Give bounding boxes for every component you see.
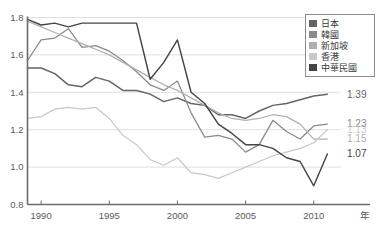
legend-item-0[interactable]: 日本: [309, 18, 370, 29]
legend-swatch-icon-2: [309, 42, 317, 49]
series-lines-group: [28, 19, 328, 185]
x-tick-labels-group: 19901995200020052010: [31, 210, 325, 221]
x-tick-label-2: 2000: [167, 210, 188, 221]
chart-legend: 日本 韓國 新加坡 香港 中華民國: [305, 14, 375, 77]
series-line-0: [28, 68, 328, 118]
series-line-2: [28, 21, 328, 139]
x-tick-label-3: 2005: [235, 210, 256, 221]
y-tick-label-3: 1.2: [10, 124, 23, 135]
legend-swatch-icon-3: [309, 53, 317, 60]
legend-swatch-icon-1: [309, 31, 317, 38]
x-axis-unit-group: 年: [360, 210, 370, 221]
legend-label-1: 韓國: [321, 30, 339, 40]
legend-item-3[interactable]: 香港: [309, 51, 370, 62]
legend-item-2[interactable]: 新加坡: [309, 40, 370, 51]
y-tick-labels-group: 1.81.61.41.21.00.8: [10, 12, 23, 210]
legend-item-4[interactable]: 中華民國: [309, 62, 370, 73]
y-tick-label-2: 1.4: [10, 87, 23, 98]
end-label-0: 1.39: [347, 89, 367, 100]
end-label-3: 1.13: [347, 124, 367, 135]
legend-label-3: 香港: [321, 52, 339, 62]
series-line-3: [28, 107, 328, 178]
x-tick-label-1: 1995: [99, 210, 120, 221]
x-tick-label-4: 2010: [303, 210, 324, 221]
fertility-rate-line-chart: 1.81.61.41.21.00.8 19901995200020052010 …: [0, 0, 383, 230]
legend-label-2: 新加坡: [321, 41, 348, 51]
legend-label-0: 日本: [321, 19, 339, 29]
y-tick-label-0: 1.8: [10, 12, 23, 23]
series-line-4: [28, 19, 328, 185]
end-label-4: 1.07: [347, 148, 367, 159]
x-tick-label-0: 1990: [31, 210, 52, 221]
x-axis-unit-label: 年: [360, 210, 370, 221]
legend-item-1[interactable]: 韓國: [309, 29, 370, 40]
y-tick-label-5: 0.8: [10, 199, 23, 210]
legend-label-4: 中華民國: [321, 63, 357, 73]
y-tick-label-1: 1.6: [10, 49, 23, 60]
y-tick-label-4: 1.0: [10, 161, 23, 172]
legend-swatch-icon-4: [309, 64, 317, 71]
series-end-labels-group: 1.391.231.151.131.07: [347, 89, 367, 160]
legend-swatch-icon-0: [309, 20, 317, 27]
